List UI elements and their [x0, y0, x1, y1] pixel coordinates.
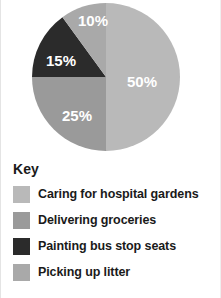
pie-slice-value-label: 50% [127, 73, 157, 90]
legend-item-label: Picking up litter [38, 265, 130, 279]
pie-chart-figure: 50%25%15%10% [1, 0, 221, 156]
legend-color-swatch [13, 264, 30, 281]
legend-item: Caring for hospital gardens [13, 184, 218, 204]
pie-slice-value-label: 15% [46, 52, 76, 69]
legend-item-label: Caring for hospital gardens [38, 187, 199, 201]
legend-item-label: Delivering groceries [38, 213, 156, 227]
legend-item: Painting bus stop seats [13, 236, 218, 256]
pie-chart-svg: 50%25%15%10% [1, 0, 221, 156]
legend-item: Delivering groceries [13, 210, 218, 230]
legend-color-swatch [13, 186, 30, 203]
pie-chart-page: 50%25%15%10% Key Caring for hospital gar… [0, 0, 221, 298]
legend-color-swatch [13, 238, 30, 255]
legend-item-label: Painting bus stop seats [38, 239, 176, 253]
legend: Key Caring for hospital gardensDeliverin… [1, 156, 221, 298]
pie-slice-value-label: 10% [78, 12, 108, 29]
pie-slice-value-label: 25% [62, 107, 92, 124]
legend-title: Key [13, 161, 39, 177]
legend-item: Picking up litter [13, 262, 218, 282]
legend-color-swatch [13, 212, 30, 229]
